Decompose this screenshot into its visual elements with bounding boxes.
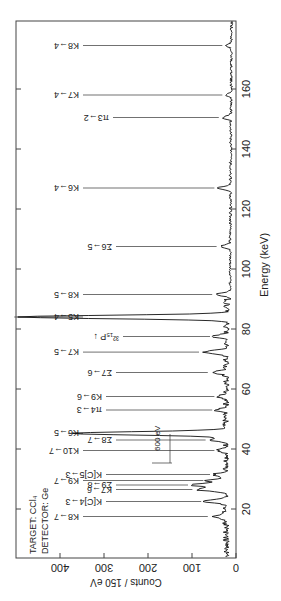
peak-annotation: Σ7→6 [87, 368, 207, 378]
x-tick-label: 60 [240, 383, 252, 395]
peak-annotation: π3→2 [84, 113, 219, 123]
svg-text:600 eV: 600 eV [153, 425, 162, 451]
y-tick-label: 200 [139, 562, 157, 574]
y-tick-label: 300 [95, 562, 113, 574]
peak-label: K[C]5→3 [65, 470, 102, 480]
peak-annotation: K10→7 [49, 446, 214, 456]
peak-label: K6→4 [54, 183, 79, 193]
peak-label: π4→3 [77, 405, 102, 415]
peak-annotation: K8→5 [54, 290, 212, 300]
y-axis-label: Counts / 150 eV [90, 577, 162, 588]
peak-annotation: K7→4 [54, 90, 222, 100]
peak-label: K8→7 [54, 512, 79, 522]
x-tick-label: 20 [240, 503, 252, 515]
plot-frame [16, 21, 236, 558]
peak-label: K9→6 [77, 392, 102, 402]
y-tick-label: 100 [183, 562, 201, 574]
peak-label: K8→5 [54, 290, 79, 300]
peak-label: π3→2 [84, 113, 109, 123]
peak-label: Σ7→6 [87, 368, 112, 378]
peak-label: K8→4 [54, 41, 79, 51]
target-label: TARGET: CCl₄ [28, 495, 38, 554]
peak-label: K10→7 [49, 446, 79, 456]
peak-annotation: π4→3 [77, 405, 212, 415]
peak-annotation: Σ9→8 [87, 480, 188, 490]
peak-annotation: K8→7 [54, 512, 208, 522]
peak-label: ³²₁₅P ↓ [94, 332, 120, 342]
peak-annotation: K[C]4→3 [65, 497, 201, 507]
peak-annotation: ³²₁₅P ↓ [94, 332, 211, 342]
peak-annotation: K7→5 [54, 347, 199, 357]
peak-label: Σ8→7 [87, 435, 112, 445]
chart-svg: 20406080100120140160 0100200300400 K8→7K… [0, 0, 281, 601]
counts-axis: 0100200300400 [51, 553, 239, 574]
peak-label: Σ9→8 [87, 480, 112, 490]
y-tick-label: 0 [233, 562, 239, 574]
x-tick-label: 160 [240, 80, 252, 98]
y-tick-label: 400 [51, 562, 69, 574]
peak-label: K7→5 [54, 347, 79, 357]
x-axis-label: Energy (keV) [258, 233, 270, 297]
spectrum-chart: 20406080100120140160 0100200300400 K8→7K… [0, 0, 281, 601]
peak-label: K[C]4→3 [65, 497, 102, 507]
x-tick-label: 80 [240, 323, 252, 335]
x-tick-label: 120 [240, 200, 252, 218]
peak-label: Σ6→5 [87, 242, 112, 252]
peak-annotation: K9→6 [77, 392, 214, 402]
peak-label: K5→4 [54, 312, 79, 322]
peak-annotation: Σ6→5 [87, 242, 216, 252]
spectrum-line [18, 22, 233, 558]
detector-label: DETECTOR: Ge [40, 488, 50, 554]
peak-annotation: K6→4 [54, 183, 214, 193]
x-tick-label: 100 [240, 260, 252, 278]
peak-annotations: K8→7K[C]4→3K7→6Σ9→8K9→7K[C]5→3K10→7Σ8→7K… [14, 41, 222, 522]
x-tick-label: 140 [240, 140, 252, 158]
x-tick-label: 40 [240, 443, 252, 455]
peak-annotation: K[C]5→3 [65, 470, 210, 480]
peak-label: K7→4 [54, 90, 79, 100]
peak-annotation: K8→4 [54, 41, 222, 51]
